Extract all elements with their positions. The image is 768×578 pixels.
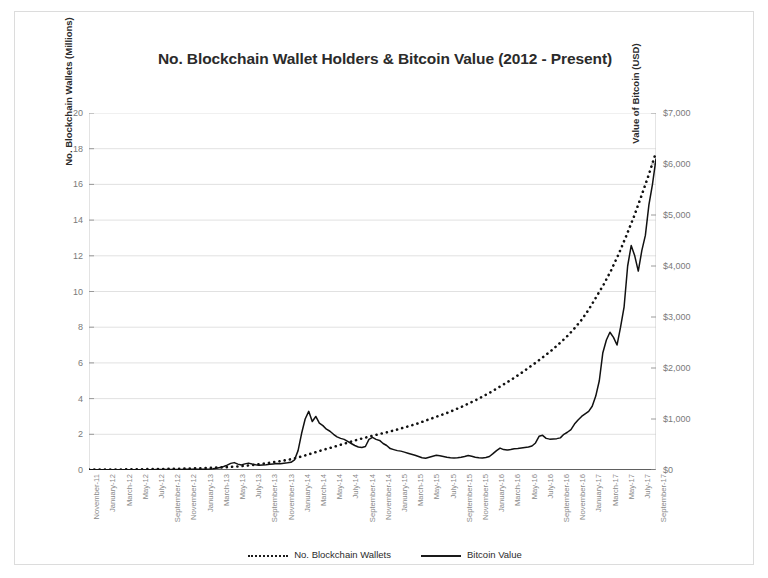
- x-axis-tick: July-13: [254, 474, 263, 498]
- legend-item-blockchain-wallets: No. Blockchain Wallets: [248, 549, 391, 560]
- y-axis-right-tick: $7,000: [663, 108, 709, 118]
- chart-container: No. Blockchain Wallet Holders & Bitcoin …: [14, 11, 754, 565]
- y-axis-right-tick: $5,000: [663, 210, 709, 220]
- gridlines: [89, 113, 656, 434]
- x-axis-tick: November-11: [92, 474, 101, 519]
- x-axis-tick: July-17: [643, 474, 652, 498]
- y-axis-right-tick: $3,000: [663, 312, 709, 322]
- dotted-line-icon: [248, 550, 288, 560]
- x-axis-tick: November-13: [287, 474, 296, 520]
- solid-line-icon: [421, 550, 461, 560]
- x-axis-tick: May-17: [627, 474, 636, 499]
- y-axis-right-tick: $0: [663, 465, 709, 475]
- y-axis-left-tick: 10: [43, 287, 83, 297]
- plot-area: 02468101214161820 $0$1,000$2,000$3,000$4…: [89, 113, 656, 470]
- x-axis-tick: May-13: [238, 474, 247, 499]
- legend-item-bitcoin-value: Bitcoin Value: [421, 549, 522, 560]
- y-axis-right-tick: $4,000: [663, 261, 709, 271]
- y-axis-left-tick: 4: [43, 394, 83, 404]
- x-axis-tick: November-12: [189, 474, 198, 520]
- y-axis-left-tick: 6: [43, 358, 83, 368]
- y-axis-left-tick: 2: [43, 429, 83, 439]
- x-axis-tick: May-12: [141, 474, 150, 499]
- x-axis-tick: September-14: [368, 474, 377, 522]
- chart-svg: [89, 113, 656, 470]
- x-axis-labels: November-11January-12March-12May-12July-…: [89, 474, 656, 546]
- y-axis-left-tick: 8: [43, 322, 83, 332]
- x-axis-tick: January-16: [497, 474, 506, 512]
- series-line-blockchain-wallets: [89, 152, 656, 469]
- x-axis-tick: March-15: [416, 474, 425, 506]
- y-axis-left-tick: 16: [43, 179, 83, 189]
- x-axis-tick: January-14: [303, 474, 312, 512]
- x-axis-tick: January-15: [400, 474, 409, 512]
- y-axis-right-tick: $2,000: [663, 363, 709, 373]
- x-axis-tick: July-12: [157, 474, 166, 498]
- x-axis-tick: July-14: [351, 474, 360, 498]
- x-axis-tick: March-17: [611, 474, 620, 506]
- series-line-bitcoin-value: [89, 159, 656, 470]
- y-axis-left-tick: 14: [43, 215, 83, 225]
- tick-marks-left: [89, 113, 94, 470]
- legend-label-blockchain-wallets: No. Blockchain Wallets: [294, 549, 391, 560]
- y-axis-left-tick: 20: [43, 108, 83, 118]
- x-axis-tick: September-17: [659, 474, 668, 522]
- chart-title: No. Blockchain Wallet Holders & Bitcoin …: [15, 50, 755, 68]
- y-axis-left-tick: 0: [43, 465, 83, 475]
- x-axis-tick: March-16: [513, 474, 522, 506]
- chart-legend: No. Blockchain Wallets Bitcoin Value: [15, 549, 755, 560]
- x-axis-tick: March-12: [125, 474, 134, 506]
- x-axis-tick: March-13: [222, 474, 231, 506]
- y-axis-right-tick: $1,000: [663, 414, 709, 424]
- y-axis-left-tick: 12: [43, 251, 83, 261]
- x-axis-tick: May-15: [432, 474, 441, 499]
- x-axis-tick: July-16: [546, 474, 555, 498]
- x-axis-tick: September-15: [465, 474, 474, 522]
- x-axis-tick: September-12: [173, 474, 182, 522]
- x-axis-tick: November-15: [481, 474, 490, 520]
- x-axis-tick: September-16: [562, 474, 571, 522]
- x-axis-tick: September-13: [270, 474, 279, 522]
- x-axis-tick: May-14: [335, 474, 344, 499]
- x-axis-tick: November-16: [578, 474, 587, 520]
- x-axis-tick: January-17: [594, 474, 603, 512]
- x-axis-tick: March-14: [319, 474, 328, 506]
- x-axis-tick: January-13: [206, 474, 215, 512]
- x-axis-tick: May-16: [530, 474, 539, 499]
- x-axis-tick: January-12: [108, 474, 117, 512]
- y-axis-left-title: No. Blockchain Wallets (Millions): [63, 0, 74, 197]
- y-axis-right-tick: $6,000: [663, 159, 709, 169]
- y-axis-left-tick: 18: [43, 144, 83, 154]
- x-axis-tick: July-15: [449, 474, 458, 498]
- legend-label-bitcoin-value: Bitcoin Value: [467, 549, 522, 560]
- x-axis-tick: November-14: [384, 474, 393, 520]
